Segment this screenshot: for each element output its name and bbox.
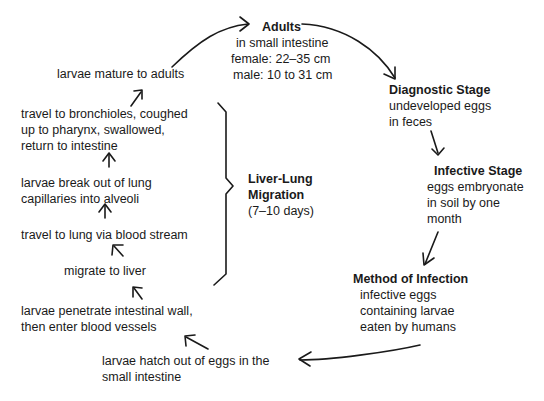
penetrate-line-1: larvae penetrate intestinal wall, bbox=[21, 303, 193, 319]
infective-line-1: eggs embryonate bbox=[427, 179, 524, 195]
arrow-hatch-to-penetrate bbox=[185, 335, 208, 349]
adults-line-3: male: 10 to 31 cm bbox=[233, 67, 332, 83]
bronchioles-line-1: travel to bronchioles, coughed bbox=[21, 106, 188, 122]
hatch-line-2: small intestine bbox=[102, 369, 181, 385]
hatch-line-1: larvae hatch out of eggs in the bbox=[102, 353, 269, 369]
migration-title-line-2: Migration bbox=[248, 187, 304, 203]
diagnostic-line-1: undeveloped eggs bbox=[389, 98, 491, 114]
method-line-3: eaten by humans bbox=[360, 319, 456, 335]
method-line-1: infective eggs bbox=[360, 287, 436, 303]
penetrate-line-2: then enter blood vessels bbox=[21, 319, 157, 335]
migration-title-line-1: Liver-Lung bbox=[248, 171, 313, 187]
migration-duration: (7–10 days) bbox=[248, 203, 314, 219]
infective-line-2: in soil by one bbox=[427, 195, 500, 211]
arrow-bronchioles-to-mature bbox=[131, 90, 142, 106]
method-line-2: containing larvae bbox=[360, 303, 455, 319]
liver-line: migrate to liver bbox=[64, 263, 146, 279]
infective-line-3: month bbox=[427, 211, 462, 227]
migration-brace bbox=[214, 103, 233, 285]
diagnostic-line-2: in feces bbox=[389, 114, 432, 130]
adults-line-1: in small intestine bbox=[236, 35, 328, 51]
arrow-infective-to-method bbox=[423, 232, 438, 265]
bronchioles-line-3: return to intestine bbox=[21, 138, 118, 154]
arrow-method-to-hatch bbox=[299, 345, 420, 366]
adults-title: Adults bbox=[262, 19, 301, 35]
arrow-diagnostic-to-infective bbox=[431, 131, 444, 155]
arrow-alveoli-to-bronchioles bbox=[103, 153, 115, 167]
bronchioles-line-2: up to pharynx, swallowed, bbox=[21, 122, 165, 138]
adults-line-2: female: 22–35 cm bbox=[231, 51, 330, 67]
infective-title: Infective Stage bbox=[434, 163, 522, 179]
mature-line: larvae mature to adults bbox=[57, 66, 184, 82]
arrow-penetrate-to-liver bbox=[133, 287, 142, 299]
alveoli-line-2: capillaries into alveoli bbox=[21, 191, 139, 207]
alveoli-line-1: larvae break out of lung bbox=[21, 175, 152, 191]
diagnostic-title: Diagnostic Stage bbox=[389, 82, 490, 98]
lung-line: travel to lung via blood stream bbox=[21, 227, 188, 243]
method-title: Method of Infection bbox=[353, 271, 468, 287]
arrow-liver-to-lung bbox=[112, 245, 123, 256]
